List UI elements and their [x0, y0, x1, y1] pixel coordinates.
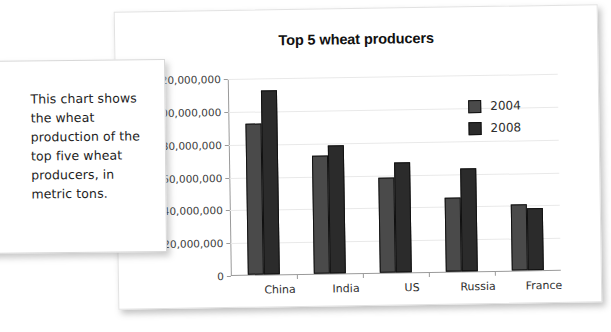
bar-russia-2004: [445, 198, 462, 272]
y-axis-tick: [227, 276, 231, 277]
chart-title: Top 5 wheat producers: [115, 27, 597, 51]
x-axis-tick: [363, 274, 364, 278]
chart-inner: Top 5 wheat producers 020,000,00040,000,…: [115, 5, 602, 309]
legend-item-2008: 2008: [468, 116, 521, 139]
bar-russia-2008: [460, 168, 478, 272]
y-axis-tick: [224, 79, 228, 80]
legend-label-2004: 2004: [490, 98, 521, 112]
y-axis-label: 40,000,000: [163, 204, 223, 217]
caption-text: This chart shows the wheat production of…: [30, 88, 149, 203]
caption-card: This chart shows the wheat production of…: [0, 59, 167, 254]
y-axis-label: 0: [217, 270, 224, 282]
bar-france-2008: [527, 208, 544, 271]
y-axis-label: 60,000,000: [162, 172, 222, 185]
y-axis-tick: [226, 243, 230, 244]
y-axis-tick: [226, 210, 230, 211]
bar-india-2008: [328, 145, 346, 273]
x-axis-tick: [495, 272, 496, 276]
y-axis-tick: [224, 112, 228, 113]
bar-china-2008: [261, 90, 280, 274]
bar-group: [377, 75, 412, 272]
legend-item-2004: 2004: [468, 94, 521, 117]
y-axis-tick: [225, 178, 229, 179]
chart-legend: 20042008: [468, 94, 521, 139]
bar-france-2004: [511, 205, 528, 271]
y-axis-label: 20,000,000: [163, 237, 223, 250]
bar-group: [245, 77, 280, 274]
x-axis-tick: [297, 275, 298, 279]
bar-us-2008: [394, 162, 412, 272]
y-axis-label: 80,000,000: [162, 139, 222, 152]
legend-swatch-2008: [468, 122, 481, 135]
x-axis-tick: [429, 273, 430, 277]
bar-group: [311, 76, 346, 273]
x-axis-label-france: France: [499, 278, 589, 292]
legend-label-2008: 2008: [490, 120, 521, 134]
chart-card: Top 5 wheat producers 020,000,00040,000,…: [114, 4, 603, 310]
legend-swatch-2004: [468, 100, 481, 113]
bar-india-2004: [312, 155, 330, 273]
bar-us-2004: [378, 177, 395, 272]
y-axis-tick: [225, 145, 229, 146]
